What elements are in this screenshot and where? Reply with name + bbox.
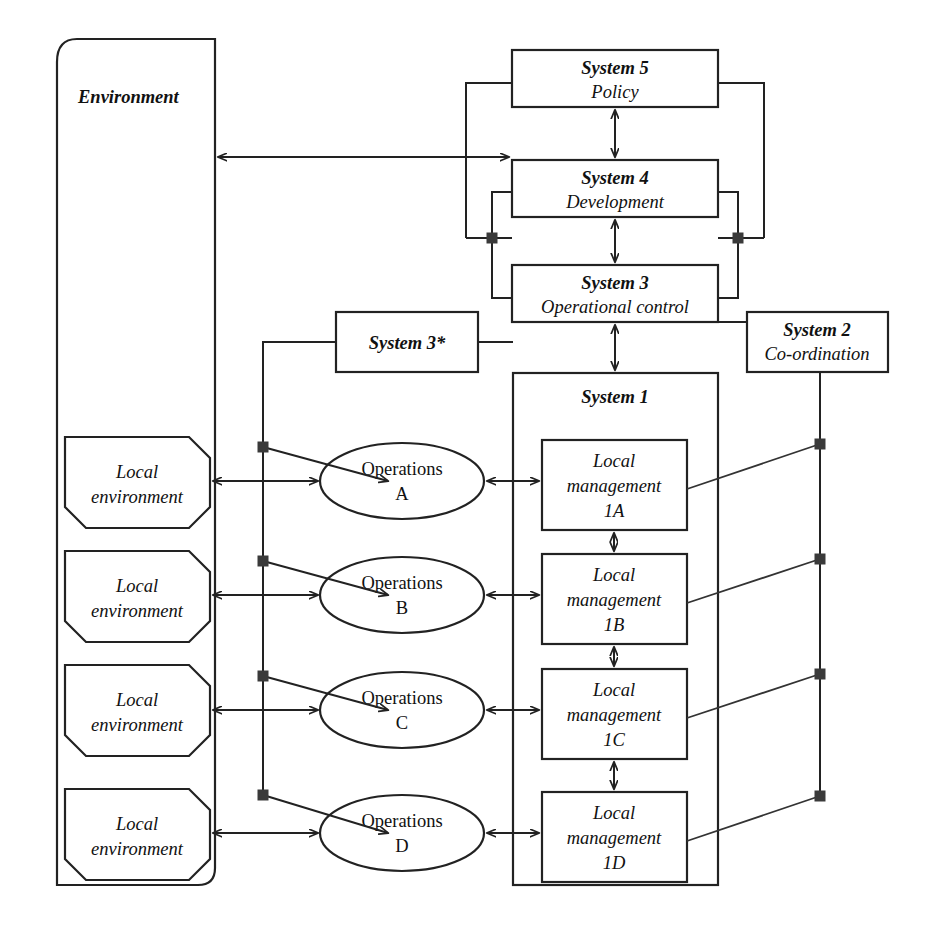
- operations-b-line1: Operations: [361, 573, 442, 593]
- system4-box[interactable]: System 4 Development: [512, 160, 718, 217]
- local-environment-a-line2: environment: [91, 487, 184, 507]
- junction-dot-s2-c: [815, 669, 825, 679]
- operations-d[interactable]: [320, 795, 484, 871]
- local-management-c-line3: 1C: [603, 730, 625, 750]
- right-feedback-loop: [718, 83, 764, 298]
- local-environment-a-line1: Local: [115, 462, 158, 482]
- system5-title: System 5: [581, 58, 648, 78]
- local-environment-d[interactable]: [65, 789, 210, 880]
- junction-dot-s2-d: [815, 791, 825, 801]
- system5-box[interactable]: System 5 Policy: [512, 50, 718, 107]
- local-environment-c-line2: environment: [91, 715, 184, 735]
- system5-subtitle: Policy: [590, 82, 639, 102]
- local-management-b-line1: Local: [592, 565, 635, 585]
- junction-dot-3star-b: [258, 556, 268, 566]
- local-management-a-line2: management: [567, 476, 662, 496]
- junction-dot-right: [733, 233, 743, 243]
- system3-subtitle: Operational control: [541, 297, 689, 317]
- junction-dot-s2-a: [815, 439, 825, 449]
- local-management-c-line1: Local: [592, 680, 635, 700]
- local-management-a-line3: 1A: [604, 501, 625, 521]
- local-environment-a[interactable]: [65, 437, 210, 528]
- system2-subtitle: Co-ordination: [764, 344, 869, 364]
- local-environment-d-line2: environment: [91, 839, 184, 859]
- system3-title: System 3: [581, 273, 648, 293]
- operations-c-line2: C: [396, 713, 408, 733]
- local-environment-b[interactable]: [65, 551, 210, 642]
- system4-subtitle: Development: [565, 192, 664, 212]
- local-management-c-line2: management: [567, 705, 662, 725]
- system2-title: System 2: [783, 320, 850, 340]
- junction-dot-left: [487, 233, 497, 243]
- left-feedback-loop: [466, 83, 512, 298]
- junction-dot-3star-a: [258, 442, 268, 452]
- local-environment-d-line1: Local: [115, 814, 158, 834]
- system3star-title: System 3*: [369, 333, 446, 353]
- operations-c-line1: Operations: [361, 688, 442, 708]
- local-management-b-line2: management: [567, 590, 662, 610]
- operations-c[interactable]: [320, 672, 484, 748]
- operations-b-line2: B: [396, 598, 408, 618]
- system1-title: System 1: [581, 387, 648, 407]
- system3-to-system2-connector: [718, 322, 820, 800]
- system3-box[interactable]: System 3 Operational control: [512, 265, 718, 322]
- local-management-b-line3: 1B: [604, 615, 625, 635]
- junction-dot-s2-b: [815, 554, 825, 564]
- local-management-d-line1: Local: [592, 803, 635, 823]
- operations-a-line1: Operations: [361, 459, 442, 479]
- environment-label: Environment: [77, 87, 180, 107]
- local-management-d-line3: 1D: [603, 853, 626, 873]
- local-environment-b-line2: environment: [91, 601, 184, 621]
- junction-dot-3star-d: [258, 790, 268, 800]
- operations-b[interactable]: [320, 557, 484, 633]
- operations-a-line2: A: [395, 484, 409, 504]
- vsm-diagram-canvas: Environment System 5 Policy System 4 Dev…: [0, 0, 936, 937]
- junction-dot-3star-c: [258, 671, 268, 681]
- system3star-box[interactable]: System 3*: [336, 312, 478, 372]
- local-environment-b-line1: Local: [115, 576, 158, 596]
- system2-box[interactable]: System 2 Co-ordination: [747, 312, 888, 372]
- local-management-d-line2: management: [567, 828, 662, 848]
- local-management-a-line1: Local: [592, 451, 635, 471]
- operations-d-line2: D: [395, 836, 408, 856]
- local-environment-c[interactable]: [65, 665, 210, 756]
- operations-a[interactable]: [320, 443, 484, 519]
- system4-title: System 4: [581, 168, 648, 188]
- local-environment-c-line1: Local: [115, 690, 158, 710]
